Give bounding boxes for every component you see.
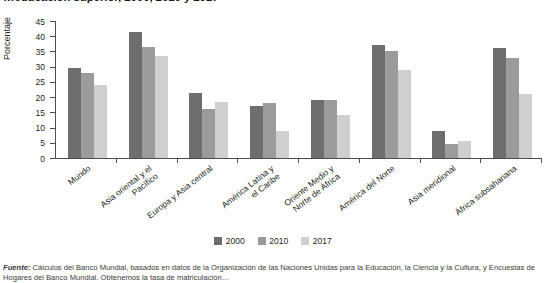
bar-group <box>189 21 228 158</box>
bar <box>519 94 532 158</box>
bar <box>506 58 519 158</box>
legend-swatch <box>301 237 309 245</box>
bar <box>189 93 202 158</box>
bar <box>276 131 289 158</box>
y-axis-tick-label: 10 <box>36 123 45 133</box>
bar <box>94 85 107 158</box>
x-axis-tick-mark <box>359 158 360 163</box>
bar <box>155 56 168 158</box>
x-axis-tick-mark <box>541 158 542 163</box>
bar <box>458 141 471 158</box>
bar <box>202 109 215 158</box>
bar <box>337 115 350 158</box>
chart-title-strip: …educación superior, 2000, 2010 y 2017 <box>0 0 546 8</box>
y-axis-tick-label: 45 <box>36 17 45 27</box>
bar-group <box>68 21 107 158</box>
x-axis-tick-mark <box>480 158 481 163</box>
legend-item: 2000 <box>214 236 244 246</box>
bar-group <box>250 21 289 158</box>
bar <box>398 70 411 158</box>
x-axis-tick-mark <box>237 158 238 163</box>
y-axis-label: Porcentaje <box>2 17 12 60</box>
bar <box>263 103 276 158</box>
bar-group <box>129 21 168 158</box>
bar <box>250 106 263 158</box>
legend-label: 2017 <box>313 236 332 246</box>
bar <box>142 47 155 158</box>
bar-group <box>311 21 350 158</box>
y-axis-tick-label: 35 <box>36 47 45 57</box>
legend-item: 2017 <box>301 236 331 246</box>
legend-swatch <box>214 237 222 245</box>
bar <box>372 45 385 158</box>
legend-swatch <box>258 237 266 245</box>
chart-legend: 200020102017 <box>0 236 546 246</box>
bar-group <box>372 21 411 158</box>
bar <box>493 48 506 158</box>
y-axis-tick-label: 30 <box>36 62 45 72</box>
y-axis-tick-label: 25 <box>36 77 45 87</box>
bar <box>432 131 445 158</box>
y-axis-tick-mark <box>50 158 55 159</box>
source-text: Cálculos del Banco Mundial, basados en d… <box>30 263 486 272</box>
plot-area <box>55 21 541 158</box>
bar <box>324 100 337 158</box>
x-axis-tick-mark <box>420 158 421 163</box>
legend-item: 2010 <box>258 236 288 246</box>
x-axis-tick-mark <box>177 158 178 163</box>
x-axis-tick-mark <box>116 158 117 163</box>
y-axis-tick-label: 40 <box>36 32 45 42</box>
bar-group <box>432 21 471 158</box>
legend-label: 2000 <box>226 236 245 246</box>
source-label: Fuente: <box>3 263 30 272</box>
chart-container: Porcentaje 051015202530354045 MundoAsia … <box>0 8 546 230</box>
page-title: …educación superior, 2000, 2010 y 2017 <box>3 0 218 3</box>
bar <box>385 51 398 158</box>
bar <box>445 144 458 158</box>
bar <box>68 68 81 158</box>
y-axis-tick-label: 5 <box>40 138 45 148</box>
y-axis-tick-label: 20 <box>36 93 45 103</box>
x-axis-tick-mark <box>298 158 299 163</box>
bar-group <box>493 21 532 158</box>
bar <box>215 102 228 158</box>
y-axis-tick-label: 0 <box>40 154 45 164</box>
bar <box>129 32 142 158</box>
bar <box>81 73 94 158</box>
legend-label: 2010 <box>269 236 288 246</box>
bar <box>311 100 324 158</box>
source-footnote: Fuente: Cálculos del Banco Mundial, basa… <box>3 263 543 283</box>
y-axis-tick-label: 15 <box>36 108 45 118</box>
